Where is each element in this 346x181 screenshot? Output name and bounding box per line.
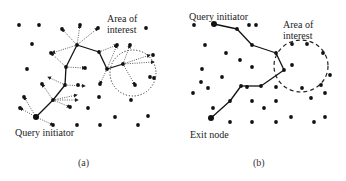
routing-path-segment	[77, 45, 99, 52]
path-node	[121, 62, 125, 66]
query-flood-arrow	[53, 100, 70, 107]
sensor-node	[115, 43, 119, 47]
sensor-node	[238, 58, 242, 62]
path-node	[274, 51, 278, 55]
sensor-node	[113, 115, 117, 119]
panel-a-area-label-line2: interest	[107, 24, 136, 35]
sensor-node	[98, 123, 102, 127]
query-flood-arrow	[42, 84, 53, 100]
sensor-node	[305, 42, 309, 46]
sensor-node	[148, 75, 152, 79]
sensor-node	[274, 85, 278, 89]
sensor-node	[289, 115, 293, 119]
routing-path-segment	[53, 85, 65, 100]
query-flood-arrow	[123, 45, 130, 64]
routing-path-segment	[237, 29, 252, 45]
query-initiator-node	[33, 114, 39, 120]
sensor-node	[18, 106, 22, 110]
routing-path-segment	[99, 52, 107, 69]
panel-b-exit-label: Exit node	[190, 129, 229, 140]
sensor-node	[133, 83, 137, 87]
panel-a-area-label-line1: Area of	[107, 13, 137, 24]
sensor-node	[211, 106, 215, 110]
sensor-node	[203, 43, 207, 47]
sensor-node	[262, 106, 266, 110]
sensor-node	[274, 99, 278, 103]
sensor-node	[136, 123, 140, 127]
sensor-node	[191, 91, 195, 95]
query-flood-arrow	[51, 53, 66, 67]
sensor-node	[49, 51, 53, 55]
sensor-node	[75, 123, 79, 127]
sensor-node	[68, 105, 72, 109]
sensor-node	[290, 42, 294, 46]
sensor-node	[206, 86, 210, 90]
sensor-node	[86, 106, 90, 110]
sensor-node	[274, 120, 278, 124]
panel-a-caption: (a)	[78, 157, 89, 168]
sensor-node	[98, 82, 102, 86]
path-node	[282, 68, 286, 72]
routing-path-segment	[230, 86, 241, 101]
sensor-node	[300, 86, 304, 90]
sensor-node	[83, 66, 87, 70]
sensor-node	[144, 26, 148, 30]
sensor-node	[40, 82, 44, 86]
panel-b-area-label-line2: interest	[283, 30, 312, 41]
sensor-node	[151, 53, 155, 57]
panel-b-initiator-label: Query initiator	[189, 11, 248, 22]
area-of-interest-circle	[110, 50, 156, 96]
sensor-node	[328, 73, 332, 77]
routing-path-segment	[107, 64, 123, 69]
sensor-node	[17, 23, 21, 27]
query-flood-arrow	[66, 67, 85, 68]
path-node	[75, 43, 79, 47]
query-flood-arrow	[48, 77, 65, 85]
sensor-node	[254, 23, 258, 27]
sensor-node	[290, 63, 294, 67]
sensor-node	[78, 23, 82, 27]
sensor-node	[60, 27, 64, 31]
sensor-node	[245, 85, 249, 89]
sensor-node	[250, 99, 254, 103]
exit-node	[208, 115, 214, 121]
path-node	[235, 27, 239, 31]
sensor-node	[199, 80, 203, 84]
sensor-node	[323, 115, 327, 119]
sensor-node	[25, 67, 29, 71]
panel-a-initiator-label: Query initiator	[15, 127, 74, 138]
sensor-node	[76, 83, 80, 87]
sensor-node	[129, 98, 133, 102]
sensor-node	[250, 65, 254, 69]
path-node	[51, 98, 55, 102]
path-node	[64, 65, 68, 69]
panel-a-graph	[17, 23, 156, 127]
path-node	[259, 84, 263, 88]
query-flood-arrow	[62, 29, 77, 45]
panel-b-area-label-line1: Area of	[283, 19, 313, 30]
sensor-node	[200, 67, 204, 71]
query-flood-arrow	[65, 85, 85, 86]
query-flood-arrow	[77, 28, 98, 45]
sensor-node	[152, 76, 156, 80]
sensor-node	[192, 23, 196, 27]
path-node	[228, 99, 232, 103]
sensor-node	[321, 51, 325, 55]
path-node	[63, 83, 67, 87]
routing-path-segment	[214, 24, 237, 29]
sensor-node	[146, 114, 150, 118]
sensor-node	[22, 95, 26, 99]
query-flood-arrow	[100, 69, 107, 84]
panel-b-caption: (b)	[253, 157, 265, 168]
sensor-node	[250, 120, 254, 124]
sensor-node	[309, 96, 313, 100]
sensor-node	[97, 95, 101, 99]
routing-path-segment	[65, 67, 66, 85]
sensor-node	[319, 83, 323, 87]
sensor-node	[247, 23, 251, 27]
sensor-node	[30, 42, 34, 46]
sensor-node	[220, 75, 224, 79]
routing-path-segment	[252, 45, 276, 53]
query-flood-arrow	[99, 45, 117, 52]
query-flood-arrow	[24, 97, 36, 117]
